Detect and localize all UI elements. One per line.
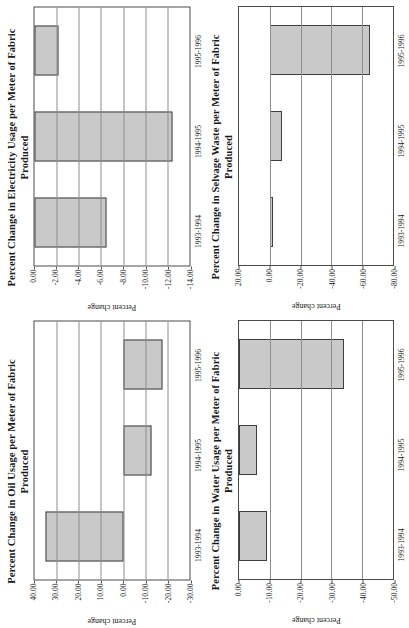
figure-panel-grid: Percent Change in Electricity Usage per … [0, 0, 409, 628]
y-tick-label: -14.00 [186, 269, 195, 289]
y-tick-label: -20.00 [296, 269, 305, 289]
y-tick-label: 10.00 [96, 583, 105, 600]
x-axis-labels: 1993-19941994-19951995-1996 [396, 0, 406, 314]
gridline [331, 7, 332, 265]
y-axis-ticks: 20.000.00-20.00-40.00-60.00-80.00 [238, 266, 394, 300]
bar-slot [239, 179, 393, 265]
bar [34, 111, 172, 161]
y-tick-label: 0.00 [265, 269, 274, 282]
chart-title: Percent Change in Water Usage per Meter … [205, 314, 235, 628]
chart-title: Percent Change in Selvage Waste per Mete… [205, 0, 235, 314]
gridline [167, 7, 168, 265]
bar [270, 25, 370, 75]
bar-slot [239, 407, 393, 493]
y-tick-label: -50.00 [390, 583, 399, 603]
y-tick-label: -80.00 [390, 269, 399, 289]
gridline [123, 7, 124, 265]
bar-slot [239, 7, 393, 93]
x-tick-label: 1993-1994 [193, 500, 202, 590]
bar [270, 111, 282, 161]
gridline [56, 321, 57, 579]
y-axis-label: Percent change [292, 300, 341, 312]
chart-panel-electricity: Percent Change in Electricity Usage per … [0, 0, 205, 314]
gridline [123, 321, 124, 579]
bar [34, 25, 58, 75]
chart-panel-selvage-waste: Percent Change in Selvage Waste per Mete… [205, 0, 409, 314]
y-tick-label: 0.00 [234, 583, 243, 596]
bar-slot [239, 93, 393, 179]
y-tick-label: -10.00 [265, 583, 274, 603]
y-axis-ticks: 0.00-2.00-4.00-6.00-8.00-10.00-12.00-14.… [33, 266, 190, 300]
y-tick-label: 30.00 [51, 583, 60, 600]
x-axis-labels: 1993-19941994-19951995-1996 [192, 314, 202, 628]
x-tick-label: 1995-1996 [193, 320, 202, 410]
x-tick-label: 1995-1996 [397, 6, 406, 96]
chart-panel-water: Percent Change in Water Usage per Meter … [205, 314, 409, 628]
gridline [362, 321, 363, 579]
bar [123, 425, 152, 475]
y-axis-label: Percent change [87, 300, 136, 312]
y-axis-ticks: 0.00-10.00-20.00-30.00-40.00-50.00 [238, 580, 394, 614]
plot-area [33, 6, 190, 266]
gridline [270, 7, 271, 265]
y-tick-label: -30.00 [327, 583, 336, 603]
bar [123, 339, 163, 389]
gridline [78, 321, 79, 579]
x-axis-labels: 1993-19941994-19951995-1996 [192, 0, 202, 314]
x-tick-label: 1995-1996 [193, 6, 202, 96]
gridline [167, 321, 168, 579]
plot-area [238, 6, 394, 266]
x-tick-label: 1994-1995 [397, 410, 406, 500]
bar-slot [239, 493, 393, 579]
x-tick-label: 1994-1995 [193, 96, 202, 186]
bar [239, 511, 267, 561]
y-tick-label: -20.00 [296, 583, 305, 603]
y-axis-ticks: 40.0030.0020.0010.000.00-10.00-20.00-30.… [33, 580, 190, 614]
y-tick-label: -2.00 [51, 269, 60, 285]
gridline [56, 7, 57, 265]
x-tick-label: 1993-1994 [397, 500, 406, 590]
bar [239, 339, 344, 389]
gridline [331, 321, 332, 579]
x-tick-label: 1995-1996 [397, 320, 406, 410]
gridline [78, 7, 79, 265]
bar [34, 197, 106, 247]
y-tick-label: -40.00 [327, 269, 336, 289]
gridline [145, 321, 146, 579]
y-tick-label: -40.00 [358, 583, 367, 603]
y-tick-label: -6.00 [96, 269, 105, 285]
y-tick-label: -10.00 [141, 583, 150, 603]
gridline [362, 7, 363, 265]
plot-area [33, 320, 190, 580]
gridline [270, 321, 271, 579]
bar-series [239, 321, 393, 579]
y-tick-label: -60.00 [358, 269, 367, 289]
x-tick-label: 1994-1995 [397, 96, 406, 186]
bar-series [239, 7, 393, 265]
x-tick-label: 1993-1994 [193, 186, 202, 276]
y-tick-label: 0.00 [118, 583, 127, 596]
gridline [100, 321, 101, 579]
y-axis-label: Percent change [292, 614, 341, 626]
gridline [301, 7, 302, 265]
y-axis-label: Percent change [87, 614, 136, 626]
bar [239, 425, 257, 475]
gridline [100, 7, 101, 265]
gridline [145, 7, 146, 265]
bar-slot [239, 321, 393, 407]
plot-area [238, 320, 394, 580]
y-tick-label: -20.00 [163, 583, 172, 603]
x-tick-label: 1994-1995 [193, 410, 202, 500]
y-tick-label: 20.00 [234, 269, 243, 286]
x-axis-labels: 1993-19941994-19951995-1996 [396, 314, 406, 628]
chart-title: Percent Change in Oil Usage per Meter of… [0, 314, 30, 628]
y-tick-label: 20.00 [73, 583, 82, 600]
y-tick-label: -12.00 [163, 269, 172, 289]
y-tick-label: 40.00 [29, 583, 38, 600]
y-tick-label: -4.00 [73, 269, 82, 285]
chart-panel-oil: Percent Change in Oil Usage per Meter of… [0, 314, 205, 628]
y-tick-label: -8.00 [118, 269, 127, 285]
y-tick-label: -10.00 [141, 269, 150, 289]
y-tick-label: -30.00 [186, 583, 195, 603]
gridline [301, 321, 302, 579]
